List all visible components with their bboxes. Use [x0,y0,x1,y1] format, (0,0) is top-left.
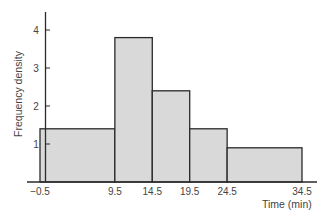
x-tick-label: −0.5 [30,186,50,197]
x-axis-label: Time (min) [262,198,312,210]
histogram-bar [115,38,152,182]
histogram-chart: 1234−0.59.514.519.524.534.5 [0,0,327,224]
histogram-bar [40,129,115,182]
histogram-bar [152,91,189,182]
x-tick-label: 14.5 [143,186,163,197]
y-axis-label: Frequency density [12,39,24,149]
histogram-bar [190,129,227,182]
x-tick-label: 9.5 [108,186,122,197]
y-tick-label: 2 [33,101,39,112]
histogram-bar [227,148,302,182]
x-tick-label: 24.5 [217,186,237,197]
y-tick-label: 1 [33,139,39,150]
y-tick-label: 4 [33,25,39,36]
x-tick-label: 19.5 [180,186,200,197]
x-tick-label: 34.5 [292,186,312,197]
y-tick-label: 3 [33,63,39,74]
